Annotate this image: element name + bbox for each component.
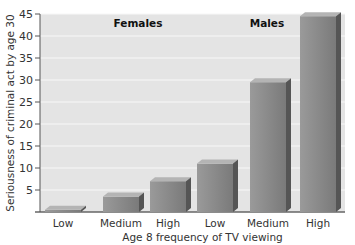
x-axis-title: Age 8 frequency of TV viewing <box>122 231 282 243</box>
bar-females-medium <box>103 193 144 212</box>
y-axis-title: Seriousness of criminal act by age 30 <box>4 14 16 211</box>
bar-chart: 51015202530354045 LowMediumHighLowMedium… <box>0 0 355 245</box>
x-category-label: High <box>306 217 330 229</box>
bar-side <box>336 12 341 212</box>
bar-side <box>286 78 291 212</box>
bar-front <box>45 210 81 212</box>
y-tick-label: 45 <box>19 8 33 21</box>
plot-background <box>40 14 345 212</box>
bar-front <box>300 16 336 212</box>
y-tick-label: 5 <box>26 184 33 197</box>
bar-top <box>197 160 238 164</box>
bar-front <box>250 82 286 212</box>
y-tick-label: 40 <box>19 30 33 43</box>
x-category-label: Medium <box>100 217 142 229</box>
group-label-males: Males <box>250 17 285 29</box>
x-category-label: High <box>156 217 180 229</box>
bar-top <box>250 78 291 82</box>
bar-males-low <box>197 160 238 212</box>
x-category-label: Medium <box>247 217 289 229</box>
y-tick-label: 10 <box>19 162 33 175</box>
bar-top <box>103 193 144 197</box>
bar-side <box>233 160 238 212</box>
x-category-label: Low <box>53 217 74 229</box>
x-axis-category-labels: LowMediumHighLowMediumHigh <box>53 217 330 229</box>
bar-top <box>300 12 341 16</box>
bar-females-high <box>150 177 191 212</box>
bar-top <box>150 177 191 181</box>
x-category-label: Low <box>205 217 226 229</box>
bar-front <box>103 197 139 212</box>
y-tick-label: 35 <box>19 52 33 65</box>
bar-males-medium <box>250 78 291 212</box>
bar-side <box>186 177 191 212</box>
y-tick-label: 25 <box>19 96 33 109</box>
y-tick-label: 20 <box>19 118 33 131</box>
bar-males-high <box>300 12 341 212</box>
bar-front <box>197 164 233 212</box>
bar-front <box>150 181 186 212</box>
bar-females-low <box>45 206 86 212</box>
bar-top <box>45 206 86 210</box>
y-tick-label: 30 <box>19 74 33 87</box>
group-label-females: Females <box>114 17 163 29</box>
y-tick-label: 15 <box>19 140 33 153</box>
